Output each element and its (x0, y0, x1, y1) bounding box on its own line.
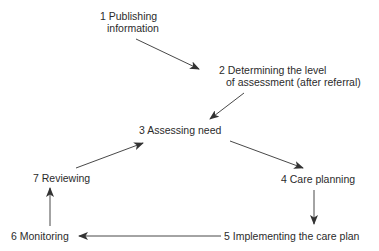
node-reviewing: 7 Reviewing (33, 172, 90, 184)
arrow-1-to-2 (136, 39, 199, 69)
node-care-planning: 4 Care planning (281, 173, 355, 185)
node-assessing-need: 3 Assessing need (139, 124, 221, 136)
node-2-line1: 2 Determining the level (219, 64, 326, 76)
node-4-label: 4 Care planning (281, 173, 355, 185)
node-monitoring: 6 Monitoring (11, 230, 69, 242)
node-determining-level-of-assessment: 2 Determining the level of assessment (a… (219, 64, 361, 88)
care-management-cycle-diagram: 1 Publishing information 2 Determining t… (0, 0, 379, 251)
node-1-line2: information (100, 22, 159, 34)
node-6-label: 6 Monitoring (11, 230, 69, 242)
node-2-line2: of assessment (after referral) (219, 76, 361, 88)
arrow-7-to-3 (76, 143, 143, 168)
node-7-label: 7 Reviewing (33, 172, 90, 184)
node-3-label: 3 Assessing need (139, 124, 221, 136)
arrow-3-to-4 (230, 141, 303, 168)
node-publishing-information: 1 Publishing information (100, 10, 159, 34)
arrow-2-to-3 (210, 93, 244, 119)
node-1-line1: 1 Publishing (100, 10, 157, 22)
node-implementing-care-plan: 5 Implementing the care plan (224, 230, 359, 242)
node-5-label: 5 Implementing the care plan (224, 230, 359, 242)
